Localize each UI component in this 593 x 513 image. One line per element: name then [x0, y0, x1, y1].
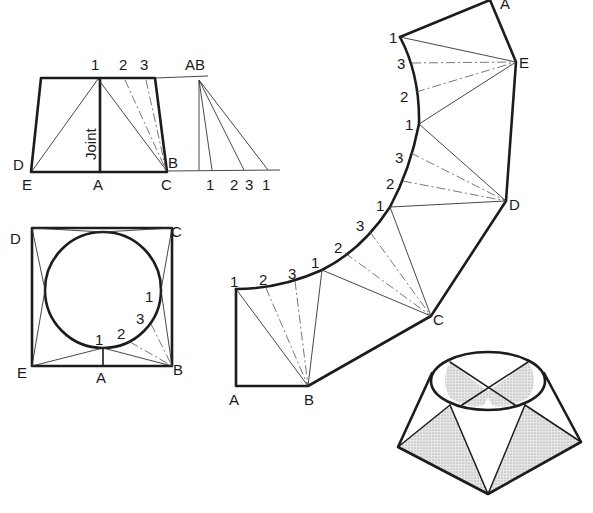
dev-arc-1b: 1	[311, 254, 319, 271]
dev-label-a-top: A	[500, 0, 510, 12]
dev-e-3	[412, 62, 516, 63]
tl-label-2: 2	[230, 176, 238, 193]
dev-arc-up-3b: 3	[397, 55, 405, 72]
dev-label-d: D	[509, 196, 520, 213]
development-pattern: A B C D E A 1 2 3 1 2 3 1 3 2 1 3 1 2	[229, 0, 529, 408]
joint-label: Joint	[82, 127, 99, 160]
dev-b-1	[236, 289, 308, 386]
dev-arc-mid-3: 3	[356, 217, 364, 234]
dev-top-edge	[400, 0, 490, 37]
tl-label-3: 3	[245, 176, 253, 193]
plan-t7	[32, 348, 103, 366]
dev-d-2	[403, 181, 506, 201]
plan-circle-1: 1	[95, 331, 103, 348]
dev-c-2	[345, 253, 431, 316]
dev-label-b: B	[304, 391, 314, 408]
dev-label-a: A	[229, 391, 239, 408]
dev-arc-up-1: 1	[405, 116, 413, 133]
dev-e-1b	[400, 37, 516, 62]
elev-label-1: 1	[91, 56, 99, 73]
plan-t3	[32, 228, 45, 290]
tl-apex-label: AB	[185, 56, 205, 73]
elev-label-b: B	[168, 154, 178, 171]
dev-e-2	[416, 62, 516, 92]
dev-label-c: C	[433, 311, 444, 328]
elev-label-a: A	[93, 176, 103, 193]
elev-label-2: 2	[119, 56, 127, 73]
plan-circle-1b: 1	[145, 288, 153, 305]
dev-e-1	[419, 62, 516, 124]
elevation-view: 1 2 3 D E A B C Joint AB 1 2 3 1	[13, 56, 280, 193]
dev-d-3	[411, 153, 506, 201]
plan-label-d: D	[10, 230, 21, 247]
elev-label-d: D	[13, 156, 24, 173]
plan-label-e: E	[17, 364, 27, 381]
tl-line-3	[199, 80, 268, 170]
dev-arc-3: 3	[288, 265, 296, 282]
projector-top	[155, 76, 208, 78]
dev-curved-edge	[236, 37, 419, 289]
dev-arc-up-2b: 2	[400, 88, 408, 105]
drawing-canvas: 1 2 3 D E A B C Joint AB 1 2 3 1 D	[0, 0, 593, 513]
dev-arc-up-3: 3	[395, 149, 403, 166]
elev-label-e: E	[22, 176, 32, 193]
dev-arc-up-1b: 1	[389, 29, 397, 46]
dev-b-1b	[308, 270, 322, 386]
dev-arc-1: 1	[230, 273, 238, 290]
dev-outer-edge	[236, 0, 516, 386]
pictorial-view	[398, 352, 581, 494]
plan-label-b: B	[173, 361, 183, 378]
dev-d-1b	[419, 124, 506, 201]
dev-arc-mid-1: 1	[376, 197, 384, 214]
elev-label-3: 3	[140, 56, 148, 73]
plan-label-c: C	[171, 223, 182, 240]
plan-label-a: A	[96, 369, 106, 386]
plan-circle-2: 2	[117, 325, 125, 342]
elev-label-c: C	[161, 176, 172, 193]
plan-circle-3: 3	[136, 310, 144, 327]
dev-arc-up-2: 2	[386, 175, 394, 192]
dev-label-e: E	[519, 54, 529, 71]
dev-arc-mid-2: 2	[334, 239, 342, 256]
dev-d-1	[390, 201, 506, 207]
plan-view: D C E B A 1 2 3 1	[10, 223, 183, 386]
projector-base	[167, 170, 280, 171]
plan-d2	[130, 342, 172, 366]
tl-label-1: 1	[206, 176, 214, 193]
plan-t4	[32, 290, 45, 366]
dev-c-1b	[390, 207, 431, 316]
dev-arc-2: 2	[259, 271, 267, 288]
tl-label-1b: 1	[262, 176, 270, 193]
plan-t8	[103, 348, 172, 366]
